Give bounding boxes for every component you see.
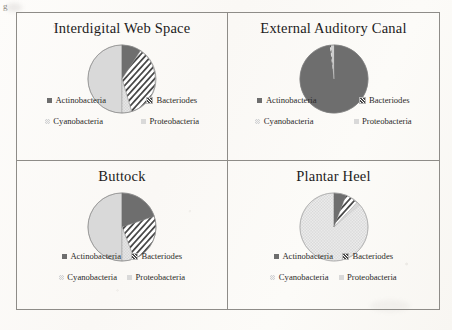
legend-item-actinobacteria[interactable]: Actinobacteria [47,95,106,105]
legend-item-actinobacteria[interactable]: Actinobacteria [274,251,333,261]
legend-swatch-bacteriodes-icon [146,97,153,104]
legend-item-bacteriodes[interactable]: Bacteriodes [131,251,182,261]
legend-label: Actinobacteria [266,95,317,105]
legend-label: Cyanobacteria [67,272,117,282]
legend-item-cyanobacteria[interactable]: Cyanobacteria [255,116,313,126]
legend-row: Actinobacteria Bacteriodes [17,251,227,261]
legend-swatch-proteobacteria-icon [339,275,344,280]
legend-item-actinobacteria[interactable]: Actinobacteria [62,251,121,261]
legend-interdigital-web-space: Actinobacteria Bacteriodes Cyanobacteria… [17,95,227,126]
legend-item-proteobacteria[interactable]: Proteobacteria [127,272,185,282]
legend-buttock: Actinobacteria Bacteriodes Cyanobacteria… [17,251,227,282]
legend-swatch-proteobacteria-icon [354,119,359,124]
legend-item-cyanobacteria[interactable]: Cyanobacteria [270,272,328,282]
legend-label: Proteobacteria [362,116,412,126]
panel-title: Interdigital Web Space [17,21,227,37]
legend-item-bacteriodes[interactable]: Bacteriodes [342,251,393,261]
legend-label: Cyanobacteria [279,272,329,282]
legend-swatch-cyanobacteria-icon [255,119,260,124]
panel-title: Plantar Heel [228,169,439,185]
scan-smudge [6,3,22,12]
legend-plantar-heel: Actinobacteria Bacteriodes Cyanobacteria… [228,251,439,282]
panel-buttock: Buttock [17,161,228,309]
legend-swatch-proteobacteria-icon [127,275,132,280]
legend-item-cyanobacteria[interactable]: Cyanobacteria [45,116,103,126]
panel-plantar-heel: Plantar Heel [228,161,439,309]
panel-title: External Auditory Canal [228,21,439,37]
legend-item-cyanobacteria[interactable]: Cyanobacteria [59,272,117,282]
legend-swatch-bacteriodes-icon [342,253,349,260]
legend-row: Cyanobacteria Proteobacteria [228,272,439,282]
legend-label: Cyanobacteria [264,116,314,126]
panel-external-auditory-canal: External Auditory Canal [228,13,439,161]
legend-label: Proteobacteria [150,116,200,126]
legend-item-proteobacteria[interactable]: Proteobacteria [354,116,412,126]
legend-swatch-proteobacteria-icon [141,119,146,124]
legend-label: Actinobacteria [55,95,106,105]
legend-item-bacteriodes[interactable]: Bacteriodes [359,95,410,105]
legend-swatch-cyanobacteria-icon [45,119,50,124]
legend-row: Actinobacteria Bacteriodes [228,251,439,261]
panel-interdigital-web-space: Interdigital Web Space [17,13,228,161]
legend-swatch-actinobacteria-icon [274,254,279,259]
panel-title: Buttock [17,169,227,185]
legend-label: Bacteriodes [369,95,410,105]
legend-label: Bacteriodes [157,95,198,105]
legend-label: Actinobacteria [282,251,333,261]
legend-swatch-bacteriodes-icon [131,253,138,260]
legend-item-proteobacteria[interactable]: Proteobacteria [339,272,397,282]
legend-swatch-actinobacteria-icon [47,98,52,103]
legend-external-auditory-canal: Actinobacteria Bacteriodes Cyanobacteria… [228,95,439,126]
legend-swatch-cyanobacteria-icon [270,275,275,280]
legend-swatch-actinobacteria-icon [257,98,262,103]
legend-row: Cyanobacteria Proteobacteria [17,272,227,282]
page-corner-mark: g [3,1,8,11]
legend-label: Bacteriodes [142,251,183,261]
legend-row: Cyanobacteria Proteobacteria [228,116,439,126]
legend-row: Actinobacteria Bacteriodes [228,95,439,105]
legend-label: Actinobacteria [70,251,121,261]
legend-item-bacteriodes[interactable]: Bacteriodes [146,95,197,105]
legend-item-proteobacteria[interactable]: Proteobacteria [141,116,199,126]
legend-item-actinobacteria[interactable]: Actinobacteria [257,95,316,105]
legend-row: Actinobacteria Bacteriodes [17,95,227,105]
legend-label: Proteobacteria [347,272,397,282]
legend-row: Cyanobacteria Proteobacteria [17,116,227,126]
legend-swatch-bacteriodes-icon [359,97,366,104]
legend-label: Bacteriodes [353,251,394,261]
figure-frame: Interdigital Web Space [16,12,440,310]
legend-swatch-actinobacteria-icon [62,254,67,259]
legend-label: Proteobacteria [136,272,186,282]
legend-swatch-cyanobacteria-icon [59,275,64,280]
legend-label: Cyanobacteria [53,116,103,126]
